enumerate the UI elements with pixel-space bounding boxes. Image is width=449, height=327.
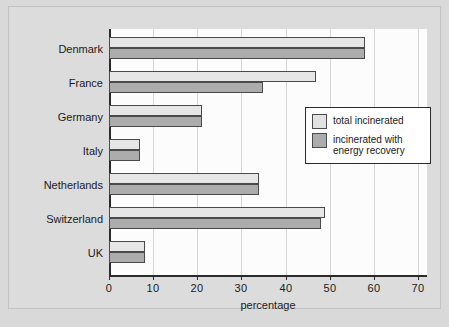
x-tick-70 [418,275,419,280]
x-tick-20 [197,275,198,280]
bar-italy-total [109,139,140,150]
x-tick-label-30: 30 [226,282,256,294]
legend-label-recovery-line2: energy recovery [333,145,405,156]
x-tick-label-60: 60 [359,282,389,294]
bar-france-total [109,71,316,82]
bar-switzerland-total [109,207,325,218]
x-tick-30 [241,275,242,280]
legend-label-total: total incinerated [333,113,404,126]
y-tick-label-netherlands: Netherlands [9,179,103,191]
x-tick-0 [109,275,110,280]
y-tick-label-denmark: Denmark [9,43,103,55]
x-tick-40 [286,275,287,280]
bar-switzerland-recovery [109,218,321,229]
bar-italy-recovery [109,150,140,161]
y-tick-label-uk: UK [9,247,103,259]
chart-card: Denmark France Germany Italy Netherlands… [8,6,441,309]
x-tick-label-40: 40 [271,282,301,294]
x-tick-label-70: 70 [403,282,433,294]
y-tick-label-switzerland: Switzerland [9,213,103,225]
x-tick-label-20: 20 [182,282,212,294]
bar-netherlands-recovery [109,184,259,195]
bar-uk-recovery [109,252,145,263]
legend-swatch-total [312,114,327,129]
bar-denmark-recovery [109,48,365,59]
y-tick-label-germany: Germany [9,111,103,123]
x-axis-label: percentage [109,299,427,311]
legend-swatch-recovery [312,133,327,148]
bar-germany-total [109,105,202,116]
legend-entry-recovery: incinerated with energy recovery [312,132,424,156]
gridline-30 [241,29,242,275]
bar-uk-total [109,241,145,252]
bar-denmark-total [109,37,365,48]
y-tick-label-france: France [9,77,103,89]
bar-germany-recovery [109,116,202,127]
x-tick-label-10: 10 [138,282,168,294]
chart-figure: Denmark France Germany Italy Netherlands… [0,0,449,327]
y-tick-label-italy: Italy [9,145,103,157]
gridline-10 [153,29,154,275]
chart-legend: total incinerated incinerated with energ… [305,107,431,164]
legend-label-recovery-line1: incinerated with [333,134,405,145]
gridline-20 [197,29,198,275]
bar-netherlands-total [109,173,259,184]
x-tick-10 [153,275,154,280]
gridline-40 [286,29,287,275]
x-tick-50 [330,275,331,280]
x-tick-label-0: 0 [94,282,124,294]
legend-entry-total: total incinerated [312,113,424,129]
x-tick-60 [374,275,375,280]
legend-label-recovery: incinerated with energy recovery [333,132,405,156]
bar-france-recovery [109,82,263,93]
x-tick-label-50: 50 [315,282,345,294]
x-axis-line [109,275,427,277]
